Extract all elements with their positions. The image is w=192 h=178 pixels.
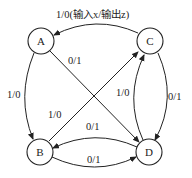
edge-c-to-d [155,53,167,140]
state-node-d: D [136,139,162,165]
edge-label-a-to-b: 1/0 [7,89,20,100]
edge-d-to-c [134,55,144,140]
svg-text:A: A [37,35,45,47]
svg-text:C: C [146,35,153,47]
state-node-a: A [28,28,54,54]
state-node-c: C [137,28,163,54]
edge-c-to-a [54,24,138,35]
edge-label-a-to-d: 0/1 [68,55,81,66]
edge-label-c-to-d: 0/1 [168,91,181,102]
edge-d-to-b [53,138,137,148]
edge-label-b-to-c: 1/0 [48,109,61,120]
edge-label-d-to-c: 1/0 [116,87,129,98]
edge-label-c-to-a: 1/0(输入x/输出z) [56,8,130,21]
edge-label-b-to-d: 0/1 [87,154,100,165]
svg-text:B: B [36,146,43,158]
state-diagram: A C B D 1/0(输入x/输出z) 0/1 1/0 1/0 1/0 0/1… [0,0,192,178]
edge-label-d-to-b: 0/1 [86,121,99,132]
state-node-b: B [27,139,53,165]
svg-text:D: D [145,146,153,158]
edge-a-to-b [25,53,34,139]
